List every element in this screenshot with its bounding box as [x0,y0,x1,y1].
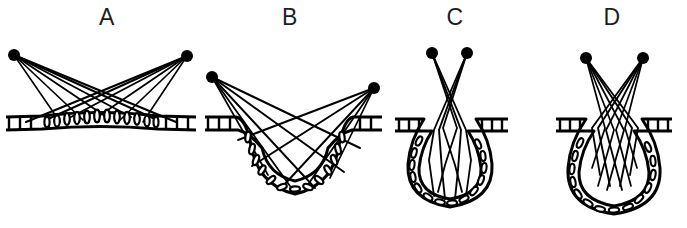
panel-d-group [556,52,672,214]
panel-d-pole-right [637,52,649,64]
panel-d-fibers [586,58,643,190]
panel-a-group [6,49,196,130]
panel-b-fibers [212,77,374,189]
panel-b-pole-right [368,82,380,94]
panel-b-plate [205,117,382,194]
figure-canvas: A B C D [0,0,687,228]
panel-d-pole-left [580,52,592,64]
panel-a-plate [6,110,196,130]
panel-c-plate-segments [399,119,502,131]
panel-c-plate [395,119,508,207]
panel-b-group [205,71,382,194]
panel-c-group [395,47,508,207]
panel-c-pole-right [461,47,473,59]
panel-a-pole-left [8,49,20,61]
diagram-svg [0,0,687,228]
panel-b-pole-left [206,71,218,83]
panel-a-pole-right [181,50,193,62]
panel-c-pole-left [426,47,438,59]
panel-c-fibers [429,53,471,199]
